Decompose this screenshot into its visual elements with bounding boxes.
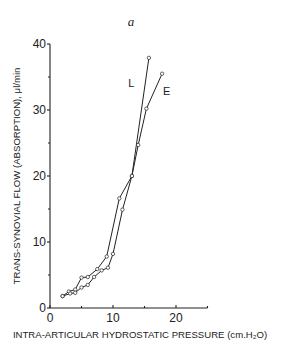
data-point-marker <box>86 283 89 286</box>
axes: 01020010203040 <box>33 37 208 325</box>
x-axis-label: INTRA-ARTICULAR HYDROSTATIC PRESSURE (cm… <box>13 329 267 340</box>
series-label-L: L <box>128 77 134 89</box>
x-tick-label: 20 <box>169 311 183 325</box>
series-E: E <box>61 72 170 298</box>
series-line-L <box>63 58 149 296</box>
data-point-marker <box>100 269 103 272</box>
y-tick-label: 10 <box>33 235 47 249</box>
data-point-marker <box>130 174 133 177</box>
data-point-marker <box>160 72 163 75</box>
data-point-marker <box>68 292 71 295</box>
data-point-marker <box>86 275 89 278</box>
data-point-marker <box>121 208 124 211</box>
chart-title: a <box>128 14 135 29</box>
data-point-marker <box>92 275 95 278</box>
data-point-marker <box>105 255 108 258</box>
x-tick-label: 10 <box>106 311 120 325</box>
y-tick-label: 20 <box>33 169 47 183</box>
data-point-marker <box>145 107 148 110</box>
data-point-marker <box>137 143 140 146</box>
series-label-E: E <box>163 85 170 97</box>
data-point-marker <box>96 267 99 270</box>
series-L: L <box>61 56 151 298</box>
data-point-marker <box>74 291 77 294</box>
series-group: LE <box>61 56 170 298</box>
data-point-marker <box>80 276 83 279</box>
chart-figure: a 01020010203040 LE TRANS-SYNOVIAL FLOW … <box>0 0 298 361</box>
data-point-marker <box>61 294 64 297</box>
y-tick-label: 0 <box>39 301 46 315</box>
data-point-marker <box>80 286 83 289</box>
data-point-marker <box>74 288 77 291</box>
data-point-marker <box>118 197 121 200</box>
data-point-marker <box>106 266 109 269</box>
y-tick-label: 30 <box>33 103 47 117</box>
y-tick-label: 40 <box>33 37 47 51</box>
data-point-marker <box>111 252 114 255</box>
x-tick-label: 0 <box>47 311 54 325</box>
data-point-marker <box>147 56 150 59</box>
y-axis-label: TRANS-SYNOVIAL FLOW (ABSORPTION), μl/min <box>11 68 22 285</box>
